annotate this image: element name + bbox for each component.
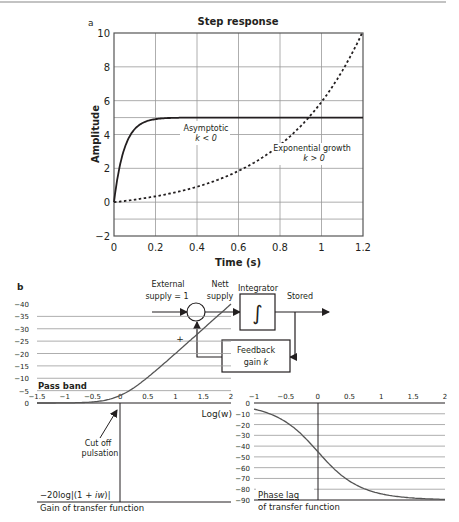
annotation-asymptotic: Asymptotic (183, 124, 228, 133)
external-supply-label: External (151, 280, 184, 289)
integral-icon: ∫ (252, 301, 262, 325)
pass-band-title: Pass band (38, 381, 87, 391)
feedback-return-arrow (197, 322, 222, 357)
gain-caption: Gain of transfer function (40, 503, 144, 513)
x-tick-label: 1 (318, 242, 324, 253)
y-axis-ticks: 0−10−20−30−40−50−60−70−80−90 (235, 400, 250, 505)
x-tick-label: 1.2 (355, 242, 371, 253)
annotation-growth-k: k > 0 (303, 154, 325, 163)
gain-formula: −20log|(1 + iw)| (40, 490, 111, 500)
y-tick-label: −40 (14, 301, 29, 309)
y-tick-label: −30 (235, 432, 250, 440)
plus-sign: + (176, 334, 184, 344)
y-axis-label: Amplitude (90, 105, 101, 163)
y-tick-label: −20 (14, 351, 29, 359)
x-tick-label: −1 (249, 393, 259, 401)
phase-curve (254, 409, 445, 499)
nett-supply-label: supply (207, 292, 234, 301)
x-tick-label: 1 (379, 393, 383, 401)
x-tick-label: −0.5 (84, 393, 101, 401)
y-tick-label: 10 (97, 28, 110, 39)
x-tick-label: 0.4 (189, 242, 205, 253)
cut-off-arrow (100, 410, 117, 438)
annotation-growth: Exponential growth (273, 144, 351, 153)
summing-junction (187, 303, 205, 321)
figure: a Step response 1086420−2 00.20.40.60.81… (0, 0, 459, 522)
y-tick-label: 0 (25, 400, 29, 408)
x-tick-label: 0.5 (344, 393, 355, 401)
y-tick-label: 4 (104, 130, 110, 141)
x-tick-label: −1.5 (29, 393, 46, 401)
x-axis-label: Time (s) (215, 257, 261, 268)
y-tick-label: 0 (246, 400, 250, 408)
phase-title: Phase lag (258, 490, 299, 500)
feedback-tap (290, 312, 295, 357)
feedback-gain-label: gain k (244, 358, 269, 367)
y-tick-label: −15 (14, 363, 29, 371)
panel-a-label: a (88, 18, 94, 28)
y-axis-ticks: 0−5−10−15−20−25−30−35−40 (14, 301, 29, 408)
feedback-label: Feedback (237, 346, 275, 355)
y-tick-label: −35 (14, 313, 29, 321)
y-tick-label: −5 (19, 388, 29, 396)
y-tick-label: −50 (235, 454, 250, 462)
y-tick-label: −20 (235, 422, 250, 430)
x-tick-label: 0.5 (142, 393, 153, 401)
nett-supply-label: Nett (211, 280, 228, 289)
stored-label: Stored (287, 292, 313, 301)
x-tick-label: 0 (315, 393, 319, 401)
x-tick-label: −1 (60, 393, 70, 401)
bode-plots: Pass band 0−5−10−15−20−25−30−35−40 −1.5−… (14, 301, 447, 513)
x-axis-ticks: 00.20.40.60.811.2 (111, 242, 371, 253)
x-axis-ticks: −1.5−1−0.500.511.52 (29, 393, 234, 401)
x-tick-label: −0.5 (277, 393, 294, 401)
y-tick-label: −70 (235, 475, 250, 483)
annotation-asymptotic-k: k < 0 (195, 134, 217, 143)
phase-caption: of transfer function (258, 502, 340, 512)
y-tick-label: 0 (104, 197, 110, 208)
y-tick-label: −60 (235, 465, 250, 473)
feedback-block (222, 340, 290, 372)
grid (114, 33, 363, 236)
x-tick-label: 0.8 (272, 242, 288, 253)
y-tick-label: −10 (14, 375, 29, 383)
x-tick-label: 0.6 (231, 242, 247, 253)
x-axis-ticks: −1−0.500.511.52 (249, 393, 447, 401)
y-tick-label: −40 (235, 443, 250, 451)
y-tick-label: −10 (235, 411, 250, 419)
y-tick-label: 6 (104, 96, 110, 107)
x-tick-label: 0.2 (148, 242, 164, 253)
panel-b-label: b (17, 282, 24, 292)
x-tick-label: 2 (229, 393, 233, 401)
log-w-label: Log(w) (202, 409, 232, 419)
y-tick-label: −25 (14, 338, 29, 346)
integrator-label: Integrator (238, 284, 279, 293)
x-tick-label: 0 (111, 242, 117, 253)
x-tick-label: 1.5 (198, 393, 209, 401)
x-tick-label: 2 (443, 393, 447, 401)
y-tick-label: −30 (14, 326, 29, 334)
x-tick-label: 1.5 (408, 393, 419, 401)
y-tick-label: 2 (104, 163, 110, 174)
y-tick-label: −80 (235, 486, 250, 494)
cut-off-label: pulsation (82, 449, 119, 458)
grid (254, 414, 445, 489)
gain-chart: 0−5−10−15−20−25−30−35−40 −1.5−1−0.500.51… (14, 301, 233, 513)
cut-off-label: Cut off (85, 439, 112, 448)
external-supply-label: supply = 1 (145, 292, 188, 301)
y-tick-label: −90 (235, 497, 250, 505)
block-diagram: b External supply = 1 Nett supply Integr… (17, 280, 329, 372)
chart-title: Step response (198, 16, 279, 27)
phase-chart: 0−10−20−30−40−50−60−70−80−90 −1−0.500.51… (235, 393, 447, 512)
step-response-chart: a Step response 1086420−2 00.20.40.60.81… (88, 16, 371, 268)
grid (37, 316, 231, 390)
x-tick-label: 1 (173, 393, 177, 401)
y-tick-label: −2 (95, 231, 110, 242)
y-tick-label: 8 (104, 62, 110, 73)
